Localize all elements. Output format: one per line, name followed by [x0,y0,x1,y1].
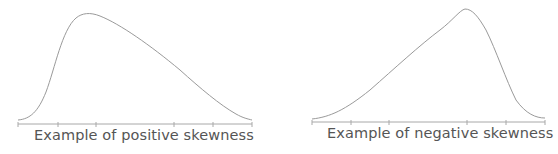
negative-skew-curve [312,9,545,119]
negative-skew-caption: Example of negative skewness [327,125,553,141]
positive-skew-curve [18,14,252,120]
negative-skew-figure [312,9,545,125]
positive-skew-figure [18,14,252,127]
positive-skew-caption: Example of positive skewness [34,127,254,143]
